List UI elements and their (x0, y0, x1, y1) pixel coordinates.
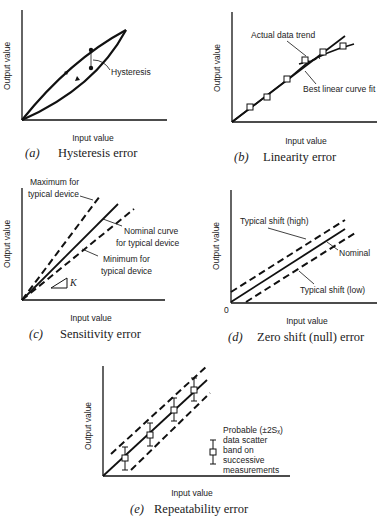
panel-letter: (b) (234, 150, 249, 164)
error-bar (191, 378, 197, 401)
panel-linearity: Actual data trend Best linear curve fit … (212, 12, 377, 164)
legend-line-4: successive (223, 455, 265, 465)
actual-data-trend-label: Actual data trend (251, 30, 316, 40)
panel-title: Hysteresis error (58, 146, 138, 160)
data-point (247, 104, 253, 110)
data-point (320, 49, 326, 55)
x-axis-label: Input value (286, 316, 328, 326)
error-bar (147, 423, 153, 446)
maximum-label-1: Maximum for (30, 177, 79, 187)
legend-line-1: Probable (±2Sₓ) (223, 425, 283, 435)
minimum-label-2: typical device (101, 266, 152, 276)
panel-letter: (a) (25, 146, 40, 160)
slope-triangle-icon (51, 278, 67, 288)
nominal-label: Nominal (339, 248, 370, 258)
panel-title: Linearity error (263, 150, 337, 164)
leader-line (305, 71, 316, 84)
panel-letter: (e) (130, 502, 144, 516)
legend-error-bar-icon (210, 440, 216, 464)
data-point (340, 43, 346, 49)
leader-line (299, 271, 314, 284)
panel-zero-shift: Typical shift (high) Nominal Typical shi… (211, 190, 377, 344)
error-bar (171, 398, 177, 421)
best-fit-label: Best linear curve fit (303, 84, 376, 94)
panel-hysteresis: Hysteresis Output value Input value (a) … (2, 10, 167, 160)
leader-line (268, 228, 306, 239)
slope-label: K (69, 277, 78, 288)
upper-band-line (111, 366, 207, 454)
y-axis-label: Output value (2, 220, 12, 268)
panel-letter: (c) (29, 327, 43, 341)
figure-canvas: Hysteresis Output value Input value (a) … (0, 0, 379, 517)
panel-title: Zero shift (null) error (257, 330, 365, 344)
data-point (264, 94, 270, 100)
maximum-line (22, 196, 100, 300)
leader-line (287, 41, 306, 56)
x-axis-label: Input value (72, 133, 114, 143)
low-shift-label: Typical shift (low) (300, 285, 365, 295)
hysteresis-label: Hysteresis (111, 67, 151, 77)
arrow-up-icon (75, 76, 80, 81)
minimum-label-1: Minimum for (103, 254, 150, 264)
leader-line (82, 249, 98, 256)
legend-line-3: band on (223, 445, 254, 455)
data-point (284, 76, 290, 82)
panel-title: Sensitivity error (60, 327, 142, 341)
data-point (302, 57, 308, 63)
y-axis-label: Output value (2, 42, 12, 90)
x-axis-label: Input value (171, 488, 213, 498)
origin-label: 0 (224, 305, 229, 315)
panel-sensitivity: Maximum for typical device Nominal curve… (2, 177, 180, 341)
legend-line-5: measurements (223, 465, 279, 475)
error-bar (122, 447, 128, 470)
nominal-label-2: for typical device (116, 238, 180, 248)
legend-line-2: data scatter (223, 435, 268, 445)
panel-repeatability: Probable (±2Sₓ) data scatter band on suc… (83, 366, 290, 516)
y-axis-label: Output value (211, 222, 221, 270)
panel-letter: (d) (228, 330, 243, 344)
nominal-label-1: Nominal curve (124, 226, 179, 236)
high-shift-line (231, 220, 345, 292)
y-axis-label: Output value (83, 402, 93, 450)
leader-line (80, 196, 93, 200)
lower-band-line (131, 393, 210, 470)
x-axis-label: Input value (285, 136, 327, 146)
y-axis-label: Output value (212, 44, 222, 92)
leader-line (327, 242, 338, 250)
nominal-line (103, 380, 207, 476)
high-shift-label: Typical shift (high) (240, 216, 309, 226)
panel-title: Repeatability error (154, 502, 249, 516)
maximum-label-2: typical device (28, 189, 79, 199)
x-axis-label: Input value (70, 313, 112, 323)
